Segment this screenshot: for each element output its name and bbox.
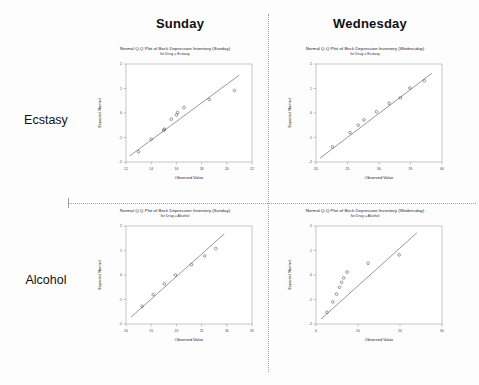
svg-text:35: 35 bbox=[250, 328, 254, 332]
svg-text:20: 20 bbox=[314, 166, 318, 170]
svg-text:10: 10 bbox=[356, 328, 360, 332]
svg-text:10: 10 bbox=[124, 328, 128, 332]
qq-plot-svg: 0102030-2-1012Observed ValueExpected Nor… bbox=[282, 220, 448, 348]
plot-area: 2025303540-2-1012Observed ValueExpected … bbox=[282, 58, 448, 186]
svg-text:-1: -1 bbox=[309, 136, 312, 140]
svg-text:16: 16 bbox=[175, 166, 179, 170]
svg-text:20: 20 bbox=[398, 328, 402, 332]
svg-text:Expected Normal: Expected Normal bbox=[288, 98, 292, 127]
svg-text:2: 2 bbox=[310, 224, 312, 228]
svg-text:35: 35 bbox=[409, 166, 413, 170]
svg-text:40: 40 bbox=[440, 166, 444, 170]
plot-area: 0102030-2-1012Observed ValueExpected Nor… bbox=[282, 220, 448, 348]
svg-text:-2: -2 bbox=[309, 160, 312, 164]
svg-text:Expected Normal: Expected Normal bbox=[98, 260, 102, 289]
svg-text:30: 30 bbox=[377, 166, 381, 170]
plot-area: 121416182022-2-1012Observed ValueExpecte… bbox=[92, 58, 258, 186]
svg-text:-1: -1 bbox=[119, 298, 122, 302]
figure-canvas: Sunday Wednesday Ecstasy Alcohol Normal … bbox=[0, 0, 479, 385]
chart-subtitle: for Drug = Ecstasy bbox=[282, 52, 448, 57]
chart-panel-wednesday-alcohol: Normal Q-Q Plot of Beck Depression Inven… bbox=[282, 208, 448, 356]
svg-text:Expected Normal: Expected Normal bbox=[288, 260, 292, 289]
svg-text:0: 0 bbox=[120, 273, 122, 277]
svg-text:-1: -1 bbox=[309, 298, 312, 302]
svg-text:20: 20 bbox=[225, 166, 229, 170]
svg-text:2: 2 bbox=[120, 62, 122, 66]
svg-text:-1: -1 bbox=[119, 136, 122, 140]
svg-text:12: 12 bbox=[124, 166, 128, 170]
qq-plot-svg: 121416182022-2-1012Observed ValueExpecte… bbox=[92, 58, 258, 186]
svg-text:Observed Value: Observed Value bbox=[175, 337, 204, 342]
row-label-ecstasy: Ecstasy bbox=[8, 113, 84, 127]
row-label-alcohol: Alcohol bbox=[8, 273, 84, 287]
svg-text:1: 1 bbox=[310, 87, 312, 91]
column-header-wednesday: Wednesday bbox=[300, 16, 440, 31]
svg-text:1: 1 bbox=[120, 87, 122, 91]
svg-text:14: 14 bbox=[149, 166, 153, 170]
chart-panel-wednesday-ecstasy: Normal Q-Q Plot of Beck Depression Inven… bbox=[282, 46, 448, 194]
qq-plot-svg: 101520253035-2-1012Observed ValueExpecte… bbox=[92, 220, 258, 348]
chart-title: Normal Q-Q Plot of Beck Depression Inven… bbox=[282, 46, 448, 52]
plot-area: 101520253035-2-1012Observed ValueExpecte… bbox=[92, 220, 258, 348]
svg-text:2: 2 bbox=[120, 224, 122, 228]
vertical-divider bbox=[268, 14, 269, 372]
svg-text:30: 30 bbox=[225, 328, 229, 332]
svg-text:Observed Value: Observed Value bbox=[175, 175, 204, 180]
svg-text:20: 20 bbox=[175, 328, 179, 332]
chart-panel-sunday-ecstasy: Normal Q-Q Plot of Beck Depression Inven… bbox=[92, 46, 258, 194]
svg-text:2: 2 bbox=[310, 62, 312, 66]
chart-subtitle: for Drug = Alcohol bbox=[92, 214, 258, 219]
chart-subtitle: for Drug = Ecstasy bbox=[92, 52, 258, 57]
svg-text:0: 0 bbox=[310, 111, 312, 115]
svg-text:0: 0 bbox=[120, 111, 122, 115]
horizontal-divider bbox=[68, 203, 476, 204]
svg-text:Observed Value: Observed Value bbox=[365, 337, 394, 342]
svg-text:15: 15 bbox=[149, 328, 153, 332]
qq-plot-svg: 2025303540-2-1012Observed ValueExpected … bbox=[282, 58, 448, 186]
svg-text:25: 25 bbox=[346, 166, 350, 170]
chart-panel-sunday-alcohol: Normal Q-Q Plot of Beck Depression Inven… bbox=[92, 208, 258, 356]
svg-text:1: 1 bbox=[120, 249, 122, 253]
svg-text:Observed Value: Observed Value bbox=[365, 175, 394, 180]
svg-text:Expected Normal: Expected Normal bbox=[98, 98, 102, 127]
svg-text:-2: -2 bbox=[119, 160, 122, 164]
svg-text:22: 22 bbox=[250, 166, 254, 170]
svg-text:0: 0 bbox=[310, 273, 312, 277]
svg-text:18: 18 bbox=[200, 166, 204, 170]
chart-title: Normal Q-Q Plot of Beck Depression Inven… bbox=[282, 208, 448, 214]
svg-text:-2: -2 bbox=[119, 322, 122, 326]
chart-subtitle: for Drug = Alcohol bbox=[282, 214, 448, 219]
svg-text:0: 0 bbox=[315, 328, 317, 332]
svg-text:25: 25 bbox=[200, 328, 204, 332]
svg-text:1: 1 bbox=[310, 249, 312, 253]
svg-text:-2: -2 bbox=[309, 322, 312, 326]
column-header-sunday: Sunday bbox=[110, 16, 250, 31]
horizontal-divider-tick bbox=[68, 198, 69, 208]
svg-text:30: 30 bbox=[440, 328, 444, 332]
